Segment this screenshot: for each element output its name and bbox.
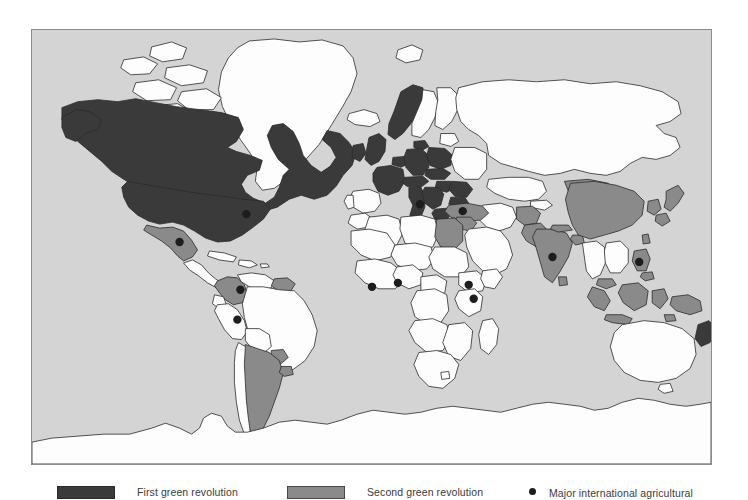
map-frame: .c{stroke:#2b2b2b;stroke-width:0.8;strok… [31, 29, 712, 465]
centre-nigeria [394, 279, 402, 287]
legend-label-second: Second green revolution [367, 486, 483, 498]
region-maluku [664, 315, 676, 322]
legend-item-research-centre: Major international agricultural [527, 478, 693, 499]
region-pr [260, 264, 269, 268]
legend-swatch-first-icon [57, 486, 115, 499]
centre-kenya [470, 295, 478, 303]
map-legend: First green revolution Second green revo… [0, 476, 748, 500]
centre-syria [459, 207, 467, 215]
region-sri-lanka [558, 277, 567, 286]
world-map: .c{stroke:#2b2b2b;stroke-width:0.8;strok… [32, 30, 711, 464]
legend-dot-icon [529, 488, 536, 495]
centre-mexico [175, 238, 183, 246]
centre-colombia [236, 286, 244, 294]
region-lesotho [441, 371, 450, 379]
legend-label-first: First green revolution [137, 486, 238, 498]
legend-item-second-green-revolution: Second green revolution [287, 486, 483, 499]
centre-ethiopia [465, 281, 473, 289]
legend-swatch-second-icon [287, 486, 345, 499]
centre-india [548, 253, 556, 261]
centre-peru [233, 315, 241, 323]
centre-west-africa [368, 283, 376, 291]
region-egypt [435, 218, 463, 249]
legend-label-centre: Major international agricultural [549, 487, 693, 499]
legend-item-first-green-revolution: First green revolution [57, 486, 238, 499]
centre-philippines [635, 258, 643, 266]
centre-usa [242, 210, 250, 218]
centre-italy [416, 200, 424, 208]
